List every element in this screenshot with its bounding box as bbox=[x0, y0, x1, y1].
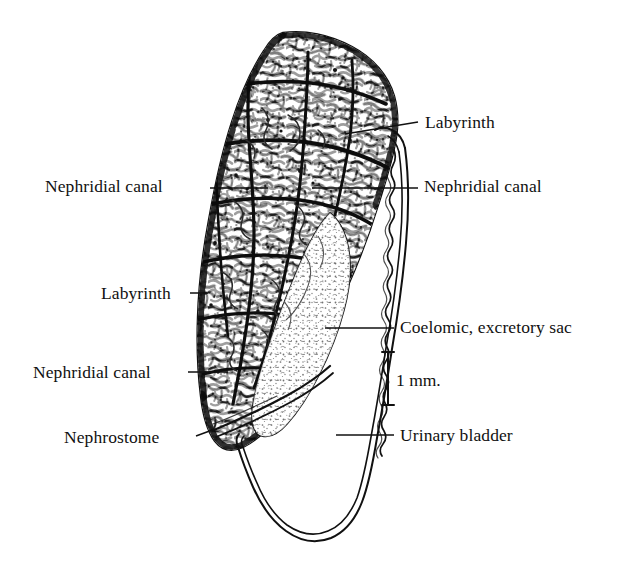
label-nephridial-canal-left-lower: Nephridial canal bbox=[33, 364, 151, 382]
figure-canvas: Labyrinth Nephridial canal Nephridial ca… bbox=[0, 0, 639, 576]
label-nephridial-canal-right: Nephridial canal bbox=[424, 178, 542, 196]
label-nephridial-canal-left-upper: Nephridial canal bbox=[45, 178, 163, 196]
label-coelomic-excretory-sac: Coelomic, excretory sac bbox=[400, 319, 572, 337]
label-urinary-bladder: Urinary bladder bbox=[400, 427, 513, 445]
label-labyrinth-right: Labyrinth bbox=[425, 114, 495, 132]
label-labyrinth-left: Labyrinth bbox=[101, 285, 171, 303]
scale-bar-label: 1 mm. bbox=[396, 372, 441, 390]
anatomical-drawing bbox=[0, 0, 639, 576]
label-nephrostome: Nephrostome bbox=[64, 429, 159, 447]
